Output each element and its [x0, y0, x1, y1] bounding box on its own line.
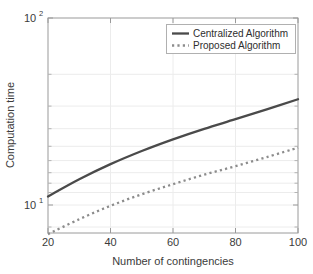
x-tick-label-60: 60: [167, 236, 179, 248]
y-tick-label-bottom-exponent: 1: [39, 196, 43, 205]
x-tick-label-100: 100: [289, 236, 307, 248]
legend[interactable]: Centralized Algorithm Proposed Algorithm: [167, 25, 296, 54]
y-tick-label-bottom-base: 10: [24, 199, 36, 211]
legend-label-proposed: Proposed Algorithm: [193, 40, 280, 51]
x-tick-label-20: 20: [42, 236, 54, 248]
y-axis-title: Computation time: [4, 82, 16, 168]
x-tick-label-40: 40: [104, 236, 116, 248]
y-tick-label-top-exponent: 2: [39, 9, 43, 18]
figure-container: 10 2 10 1 20 40 60 80 100 Number of cont…: [0, 0, 313, 274]
x-axis-title: Number of contingencies: [112, 255, 234, 267]
x-tick-label-80: 80: [229, 236, 241, 248]
legend-label-centralized: Centralized Algorithm: [193, 28, 288, 39]
chart-canvas: 10 2 10 1 20 40 60 80 100 Number of cont…: [0, 0, 313, 274]
y-tick-label-top-base: 10: [24, 12, 36, 24]
